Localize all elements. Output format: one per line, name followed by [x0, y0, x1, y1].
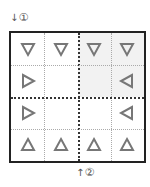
triangle-left-icon: [118, 104, 136, 122]
triangle-left-icon: [118, 72, 136, 90]
triangle-grid: [9, 31, 146, 163]
grid-cell: [78, 97, 111, 129]
grid-cell: [11, 97, 44, 129]
triangle-down-icon: [85, 40, 103, 58]
grid-cell: [78, 33, 111, 65]
label-1: ↓①: [10, 12, 28, 23]
triangle-up-icon: [118, 136, 136, 154]
circled-one: ①: [18, 11, 28, 24]
grid-cell: [11, 129, 44, 161]
grid-cell: [11, 65, 44, 97]
triangle-up-icon: [52, 136, 70, 154]
triangle-right-icon: [19, 72, 37, 90]
triangle-right-icon: [19, 104, 37, 122]
grid-cell: [111, 33, 144, 65]
grid-cell: [111, 97, 144, 129]
label-2: ↑②: [76, 167, 94, 178]
grid-cell: [111, 129, 144, 161]
triangle-down-icon: [52, 40, 70, 58]
grid-cell: [44, 97, 77, 129]
grid-cell: [111, 65, 144, 97]
circled-two: ②: [84, 166, 94, 179]
grid-cell: [44, 129, 77, 161]
triangle-up-icon: [19, 136, 37, 154]
grid-cell: [11, 33, 44, 65]
grid-cell: [78, 65, 111, 97]
grid-cell: [44, 65, 77, 97]
triangle-down-icon: [19, 40, 37, 58]
grid-cell: [78, 129, 111, 161]
grid-cell: [44, 33, 77, 65]
triangle-up-icon: [85, 136, 103, 154]
triangle-down-icon: [118, 40, 136, 58]
